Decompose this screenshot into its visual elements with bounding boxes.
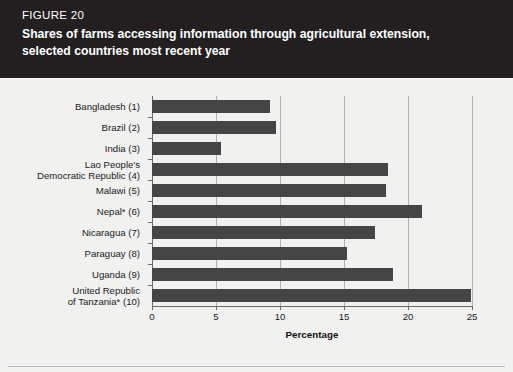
y-axis-label: Brazil (2)	[102, 122, 140, 133]
x-tick-25	[472, 306, 473, 310]
bar	[152, 163, 388, 176]
x-tick-15	[344, 306, 345, 310]
bar-row	[152, 201, 472, 222]
figure-container: FIGURE 20 Shares of farms accessing info…	[0, 0, 513, 372]
gridline-25	[472, 96, 473, 306]
y-axis-label: India (3)	[105, 143, 140, 154]
bar	[152, 100, 270, 113]
figure-number: FIGURE 20	[22, 8, 491, 23]
bar	[152, 289, 471, 302]
bar-row	[152, 285, 472, 306]
y-axis-label-line: Nepal* (6)	[97, 206, 140, 217]
bar-row	[152, 159, 472, 180]
x-tick-10	[280, 306, 281, 310]
bar	[152, 268, 393, 281]
bar-row	[152, 243, 472, 264]
y-axis-label: Nicaragua (7)	[82, 227, 140, 238]
bar-row	[152, 96, 472, 117]
y-axis-label-line: Bangladesh (1)	[75, 101, 140, 112]
y-axis-label: Paraguay (8)	[85, 248, 140, 259]
y-axis-label: Uganda (9)	[92, 269, 140, 280]
bar-row	[152, 138, 472, 159]
y-axis-category-labels: Bangladesh (1)Brazil (2)India (3)Lao Peo…	[0, 96, 146, 306]
y-axis-label-line: Uganda (9)	[92, 269, 140, 280]
y-axis-label-line: Nicaragua (7)	[82, 227, 140, 238]
x-tick-20	[408, 306, 409, 310]
y-axis-label-line: Paraguay (8)	[85, 248, 140, 259]
chart-panel: Bangladesh (1)Brazil (2)India (3)Lao Peo…	[0, 78, 513, 366]
plot-area: 0510152025 Percentage	[152, 96, 472, 306]
y-axis-label-line: Democratic Republic (4)	[37, 170, 140, 181]
y-axis-label-line: United Republic	[68, 285, 140, 296]
bar	[152, 184, 386, 197]
bar	[152, 205, 422, 218]
bar	[152, 142, 221, 155]
bar	[152, 121, 276, 134]
bar	[152, 247, 347, 260]
y-axis-label-line: of Tanzania* (10)	[68, 296, 140, 307]
x-tick-label-15: 15	[339, 311, 350, 322]
y-axis-label: Nepal* (6)	[97, 206, 140, 217]
y-axis-label: Malawi (5)	[96, 185, 140, 196]
y-axis-label-line: Malawi (5)	[96, 185, 140, 196]
y-axis-label: Bangladesh (1)	[75, 101, 140, 112]
bar-row	[152, 222, 472, 243]
y-axis-label-line: Lao People's	[37, 159, 140, 170]
y-axis-label: Lao People'sDemocratic Republic (4)	[37, 159, 140, 181]
x-tick-label-20: 20	[403, 311, 414, 322]
y-axis-label-line: Brazil (2)	[102, 122, 140, 133]
y-axis-label: United Republicof Tanzania* (10)	[68, 285, 140, 307]
bottom-divider	[8, 366, 505, 367]
x-tick-label-0: 0	[149, 311, 154, 322]
x-tick-0	[152, 306, 153, 310]
bar	[152, 226, 375, 239]
bar-row	[152, 180, 472, 201]
bar-row	[152, 117, 472, 138]
figure-title: Shares of farms accessing information th…	[22, 26, 472, 59]
bar-row	[152, 264, 472, 285]
x-tick-label-5: 5	[213, 311, 218, 322]
x-axis-title: Percentage	[152, 329, 472, 340]
x-tick-label-10: 10	[275, 311, 286, 322]
x-tick-label-25: 25	[467, 311, 478, 322]
x-axis-line	[152, 306, 473, 307]
y-axis-label-line: India (3)	[105, 143, 140, 154]
x-tick-5	[216, 306, 217, 310]
figure-header: FIGURE 20 Shares of farms accessing info…	[0, 0, 513, 78]
